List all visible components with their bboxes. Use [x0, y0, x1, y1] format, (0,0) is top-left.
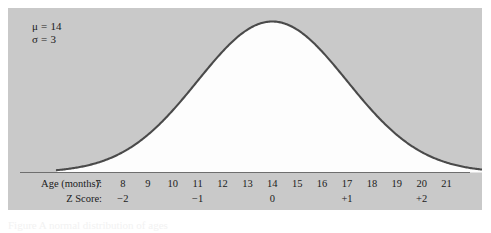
- mean-parameter-label: μ = 14: [32, 20, 62, 33]
- sd-parameter-label: σ = 3: [32, 33, 62, 46]
- chart-panel: μ = 14 σ = 3 Age (months): Z Score: 7891…: [8, 8, 482, 210]
- figure-caption: Figure A normal distribution of ages: [8, 219, 478, 233]
- normal-curve-plot: [8, 8, 482, 210]
- normal-distribution-figure: μ = 14 σ = 3 Age (months): Z Score: 7891…: [0, 0, 491, 233]
- distribution-parameters: μ = 14 σ = 3: [32, 20, 62, 45]
